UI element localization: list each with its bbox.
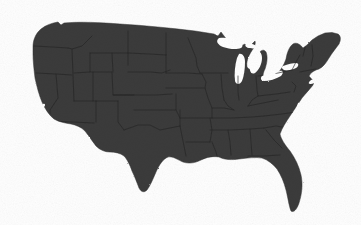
map-grain-texture — [0, 0, 361, 225]
us-map-svg — [0, 0, 361, 225]
us-map-figure — [0, 0, 361, 225]
